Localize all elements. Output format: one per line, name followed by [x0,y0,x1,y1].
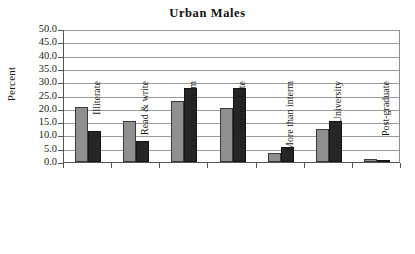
y-axis-tick-label: 5.0 [11,144,57,155]
x-axis-tick-mark [304,163,305,168]
y-axis-tick-label: 45.0 [11,37,57,48]
y-axis-tick-label: 25.0 [11,91,57,102]
x-axis-category-label: Intermediate [236,81,247,171]
y-axis-tick-label: 30.0 [11,77,57,88]
x-axis-category-label: Post-graduate [380,81,391,171]
plot-area [63,30,400,163]
x-axis-category-label: Read & write [139,81,150,171]
bar-chart-figure: Urban Males Percent 50.045.040.035.030.0… [0,0,415,254]
bar [268,153,281,162]
bar [364,159,377,162]
y-axis-tick-label: 0.0 [11,157,57,168]
y-axis-tick-label: 15.0 [11,117,57,128]
x-axis-category-label: University [332,81,343,171]
y-axis-tick-label: 50.0 [11,24,57,35]
y-axis-tick-label: 35.0 [11,64,57,75]
chart-title: Urban Males [0,6,415,21]
bar [316,129,329,162]
bar [123,121,136,162]
x-axis-tick-mark [159,163,160,168]
bar [171,101,184,162]
y-axis-tick-label: 40.0 [11,51,57,62]
x-axis-tick-mark [207,163,208,168]
x-axis-tick-mark [63,163,64,168]
x-axis-category-label: Illiterate [91,81,102,171]
y-axis-tick-label: 10.0 [11,130,57,141]
bar [220,108,233,162]
x-axis-category-label: More than interm. [284,81,295,171]
x-axis-tick-mark [352,163,353,168]
x-axis-category-label: Less than interm. [187,81,198,171]
x-axis-tick-mark [111,163,112,168]
y-axis-tick-label: 20.0 [11,104,57,115]
x-axis-tick-mark [400,163,401,168]
x-axis-tick-mark [256,163,257,168]
gridline [64,163,399,164]
bar [75,107,88,162]
